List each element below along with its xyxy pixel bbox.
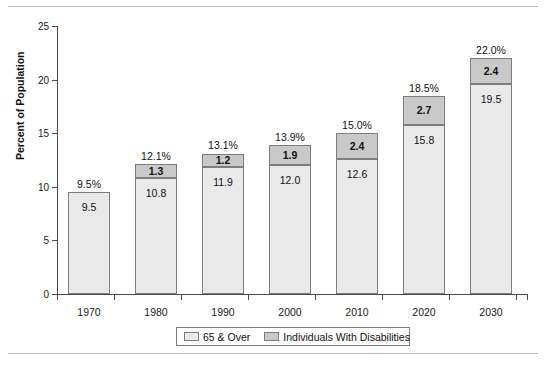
bar-segment-65-over-1970[interactable]: 9.5 — [68, 192, 110, 294]
bar-segment-65-over-2000[interactable]: 12.0 — [269, 165, 311, 294]
plot-area: 0 5 10 15 20 25 197 — [57, 26, 528, 294]
chart-legend: 65 & Over Individuals With Disabilities — [176, 327, 410, 346]
x-axis-line — [57, 294, 528, 295]
bar-total-label-2010: 15.0% — [342, 119, 372, 131]
top-divider-rule — [8, 6, 538, 7]
x-tick-label-2020: 2020 — [412, 306, 435, 318]
bar-segment-disabilities-1980[interactable]: 1.3 — [135, 164, 177, 178]
bar-value-65-over-1990: 11.9 — [213, 177, 233, 188]
bar-total-label-2030: 22.0% — [476, 44, 506, 56]
bar-group-2010[interactable]: 15.0% 12.6 2.4 — [336, 133, 378, 294]
bar-segment-65-over-2020[interactable]: 15.8 — [403, 125, 445, 294]
bar-value-disabilities-2010: 2.4 — [350, 141, 365, 152]
bar-value-65-over-1980: 10.8 — [146, 188, 166, 199]
x-tick-mark — [449, 295, 450, 300]
bar-total-label-1970: 9.5% — [77, 178, 101, 190]
bar-total-label-2020: 18.5% — [409, 82, 439, 94]
x-tick-label-2030: 2030 — [479, 306, 502, 318]
bar-value-disabilities-2030: 2.4 — [484, 66, 499, 77]
bar-segment-65-over-1980[interactable]: 10.8 — [135, 178, 177, 294]
y-tick-label-5: 5 — [43, 235, 49, 246]
bar-total-label-1980: 12.1% — [141, 150, 171, 162]
y-tick-label-10: 10 — [38, 181, 49, 192]
x-tick-label-2000: 2000 — [278, 306, 301, 318]
x-tick-mark — [527, 295, 528, 300]
bar-value-65-over-2010: 12.6 — [347, 169, 367, 180]
bar-segment-65-over-2030[interactable]: 19.5 — [470, 84, 512, 294]
bar-segment-disabilities-2020[interactable]: 2.7 — [403, 96, 445, 125]
bar-segment-disabilities-2000[interactable]: 1.9 — [269, 145, 311, 165]
x-tick-mark — [248, 295, 249, 300]
y-tick-label-25: 25 — [38, 21, 49, 32]
y-tick-label-0: 0 — [43, 289, 49, 300]
x-tick-mark — [57, 295, 58, 300]
y-tick-label-15: 15 — [38, 128, 49, 139]
y-axis-title: Percent of Population — [14, 51, 26, 160]
bar-value-65-over-2000: 12.0 — [280, 175, 300, 186]
chart-figure: Percent of Population 0 5 10 15 20 25 — [0, 0, 546, 365]
bar-group-1980[interactable]: 12.1% 10.8 1.3 — [135, 164, 177, 294]
x-tick-label-1990: 1990 — [211, 306, 234, 318]
bar-total-label-1990: 13.1% — [208, 139, 238, 151]
bar-segment-disabilities-1990[interactable]: 1.2 — [202, 154, 244, 167]
bar-value-disabilities-2020: 2.7 — [417, 105, 432, 116]
bar-segment-disabilities-2030[interactable]: 2.4 — [470, 58, 512, 84]
legend-label-65-over: 65 & Over — [203, 331, 250, 343]
legend-swatch-icon-65-over — [184, 332, 199, 341]
bar-value-65-over-1970: 9.5 — [82, 202, 97, 213]
x-tick-label-1980: 1980 — [144, 306, 167, 318]
x-tick-mark — [181, 295, 182, 300]
x-tick-mark — [516, 295, 517, 300]
bar-total-label-2000: 13.9% — [275, 131, 305, 143]
legend-item-65-over[interactable]: 65 & Over — [184, 331, 250, 343]
bar-segment-disabilities-2010[interactable]: 2.4 — [336, 133, 378, 159]
bar-segment-65-over-1990[interactable]: 11.9 — [202, 167, 244, 295]
legend-swatch-icon-disabilities — [264, 332, 279, 341]
bar-group-2030[interactable]: 22.0% 19.5 2.4 — [470, 58, 512, 294]
bar-group-2000[interactable]: 13.9% 12.0 1.9 — [269, 145, 311, 294]
x-tick-mark — [382, 295, 383, 300]
bar-segment-65-over-2010[interactable]: 12.6 — [336, 159, 378, 294]
bar-group-1970[interactable]: 9.5% 9.5 — [68, 192, 110, 294]
x-tick-mark — [315, 295, 316, 300]
legend-item-disabilities[interactable]: Individuals With Disabilities — [264, 331, 410, 343]
bar-value-disabilities-1990: 1.2 — [216, 155, 231, 166]
x-tick-label-2010: 2010 — [345, 306, 368, 318]
bottom-divider-rule — [8, 353, 538, 354]
x-tick-label-1970: 1970 — [77, 306, 100, 318]
bar-group-1990[interactable]: 13.1% 11.9 1.2 — [202, 154, 244, 294]
bar-group-2020[interactable]: 18.5% 15.8 2.7 — [403, 96, 445, 294]
y-axis-line — [57, 26, 58, 295]
legend-label-disabilities: Individuals With Disabilities — [283, 331, 410, 343]
x-tick-mark — [114, 295, 115, 300]
bar-value-65-over-2030: 19.5 — [481, 94, 501, 105]
bar-value-65-over-2020: 15.8 — [414, 135, 434, 146]
bar-value-disabilities-1980: 1.3 — [149, 166, 164, 177]
y-tick-label-20: 20 — [38, 74, 49, 85]
bar-value-disabilities-2000: 1.9 — [283, 150, 298, 161]
